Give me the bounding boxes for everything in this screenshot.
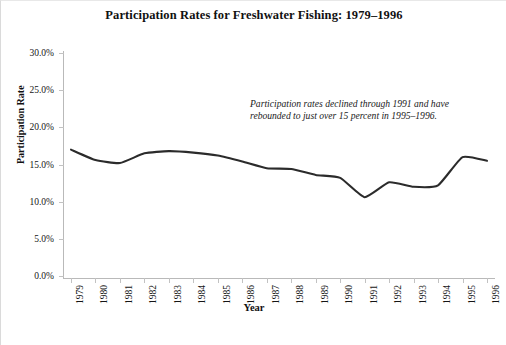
x-tick-mark <box>71 278 72 283</box>
plot-area <box>64 53 494 276</box>
x-tick-mark <box>169 278 170 283</box>
participation-rate-line-series <box>64 53 494 276</box>
x-tick-mark <box>487 278 488 283</box>
x-tick-mark <box>316 278 317 283</box>
x-tick-mark <box>291 278 292 283</box>
x-tick-mark <box>242 278 243 283</box>
x-tick-mark <box>414 278 415 283</box>
x-tick-mark <box>438 278 439 283</box>
x-tick-mark <box>218 278 219 283</box>
x-tick-mark <box>389 278 390 283</box>
x-axis-title: Year <box>1 302 506 313</box>
y-tick-label: 20.0% <box>1 122 54 132</box>
x-tick-mark <box>340 278 341 283</box>
x-tick-mark <box>365 278 366 283</box>
y-tick-label: 10.0% <box>1 197 54 207</box>
y-tick-label: 25.0% <box>1 85 54 95</box>
x-tick-mark <box>267 278 268 283</box>
x-tick-mark <box>95 278 96 283</box>
x-tick-mark <box>193 278 194 283</box>
chart-page: Participation Rates for Freshwater Fishi… <box>0 0 506 345</box>
x-tick-mark <box>120 278 121 283</box>
chart-annotation: Participation rates declined through 199… <box>250 98 465 123</box>
y-tick-label: 0.0% <box>1 271 54 281</box>
y-tick-label: 30.0% <box>1 48 54 58</box>
series-line-path <box>71 150 487 198</box>
y-tick-label: 15.0% <box>1 160 54 170</box>
x-axis-line <box>63 278 495 279</box>
chart-title: Participation Rates for Freshwater Fishi… <box>1 8 506 23</box>
y-tick-label: 5.0% <box>1 234 54 244</box>
x-tick-mark <box>144 278 145 283</box>
x-tick-mark <box>463 278 464 283</box>
y-tick-mark <box>59 276 64 277</box>
